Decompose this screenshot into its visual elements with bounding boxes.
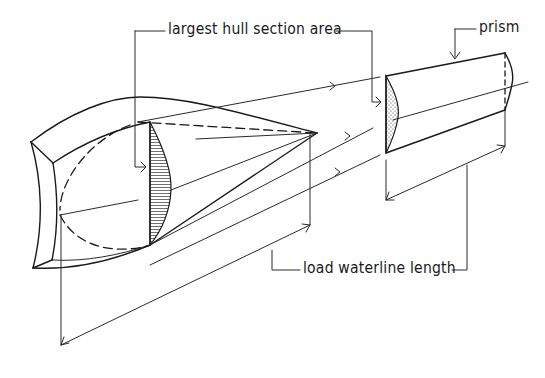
label-leader-right bbox=[452, 165, 467, 270]
hull-dashed-bilge-curve bbox=[60, 215, 148, 249]
hull-dashed-deck-line bbox=[138, 122, 317, 133]
prism-top-edge bbox=[386, 53, 505, 76]
hull-dim-arrow-aft-icon bbox=[61, 337, 69, 345]
prism-dim-arrow-aft-icon bbox=[386, 192, 394, 200]
hull-bow-inner bbox=[196, 133, 317, 139]
projection-lines bbox=[138, 77, 528, 265]
label-leader-left bbox=[272, 250, 300, 270]
projection-line-low bbox=[150, 155, 380, 265]
prism-right-end-curve bbox=[505, 53, 513, 110]
hull-centerline-aft bbox=[60, 200, 138, 215]
hull-prism-diagram bbox=[0, 0, 545, 378]
hull-dashed-transom-curve bbox=[60, 125, 130, 210]
hull-dim-line bbox=[61, 225, 310, 345]
leader-prism bbox=[450, 29, 476, 59]
midship-section-hatched-area bbox=[150, 122, 171, 245]
projection-line-mid bbox=[150, 128, 373, 245]
leader-section-area bbox=[135, 31, 381, 172]
prism-dim-line bbox=[386, 146, 505, 200]
label-prism: prism bbox=[479, 18, 519, 35]
label-largest-hull-section-area: largest hull section area bbox=[168, 20, 342, 37]
flow-arrow-2 bbox=[345, 132, 350, 140]
prism-section-shaded-area bbox=[386, 76, 398, 153]
prism-drawing bbox=[386, 53, 513, 153]
hull-transom-inner bbox=[52, 163, 57, 260]
hull-bow-lower bbox=[150, 133, 317, 245]
label-load-waterline-length: load waterline length bbox=[303, 259, 456, 276]
hull-transom-bottom bbox=[33, 260, 52, 268]
hull-bottom-line bbox=[52, 245, 150, 260]
dimension-waterline-length bbox=[61, 110, 505, 345]
hull-transom-left bbox=[31, 142, 40, 268]
